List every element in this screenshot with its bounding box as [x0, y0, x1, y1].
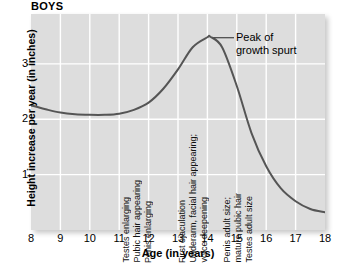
peak-callout: Peak of growth spurt	[236, 31, 297, 57]
x-tick-label: 17	[286, 232, 306, 244]
event-label: Testes enlarging	[121, 197, 132, 263]
chart-title: BOYS	[31, 0, 63, 12]
x-tick-label: 9	[50, 232, 70, 244]
event-label: Underarm, facial hair appearing;	[188, 134, 199, 263]
growth-spurt-chart-figure: BOYS 123 89101112131415161718 Height inc…	[0, 0, 339, 265]
x-tick-label: 10	[80, 232, 100, 244]
event-label: Penis adult size;	[222, 197, 233, 263]
peak-callout-line-2: growth spurt	[236, 44, 297, 57]
event-label: voice deepening	[199, 197, 210, 263]
peak-callout-line-1: Peak of	[236, 31, 297, 44]
x-tick-label: 8	[21, 232, 41, 244]
event-label: mature pubic hair	[233, 193, 244, 263]
event-label: Testes adult size	[244, 196, 255, 263]
event-label: Pubic hair appearing	[132, 180, 143, 263]
y-axis-title: Height increase per year (in inches)	[25, 18, 37, 218]
event-group-mid: First ejaculationUnderarm, facial hair a…	[177, 134, 210, 263]
event-label: Penis enlarging	[143, 201, 154, 263]
event-group-late: Penis adult size;mature pubic hairTestes…	[222, 193, 255, 263]
x-tick-label: 18	[315, 232, 335, 244]
x-tick-label: 16	[256, 232, 276, 244]
event-label: First ejaculation	[177, 200, 188, 263]
event-group-early: Testes enlargingPubic hair appearingPeni…	[121, 180, 154, 263]
